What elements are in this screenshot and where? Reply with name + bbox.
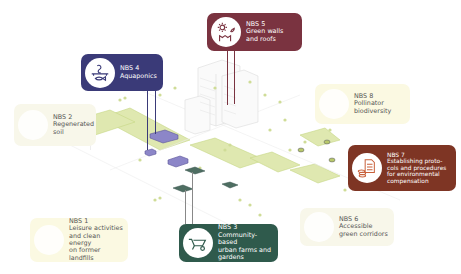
leader-line-nbs4 bbox=[155, 90, 156, 134]
icon-circle bbox=[18, 110, 48, 140]
leader-line-nbs4 bbox=[147, 90, 148, 150]
card-nbs3[interactable]: NBS 3 Community-based urban farms and ga… bbox=[179, 224, 278, 262]
card-label: Regenerated soil bbox=[53, 121, 94, 136]
card-label: Leisure activities and clean energy on f… bbox=[69, 225, 123, 262]
card-label: Aquaponics bbox=[120, 73, 157, 80]
leader-line-nbs5 bbox=[234, 50, 235, 104]
soil-icon bbox=[22, 114, 44, 136]
icon-circle bbox=[34, 225, 64, 255]
green-strip bbox=[300, 128, 340, 146]
icon-circle bbox=[211, 17, 241, 47]
bee-icon bbox=[323, 93, 345, 115]
icon-circle bbox=[304, 212, 334, 242]
farm-blocks bbox=[173, 167, 238, 192]
corridor-icon bbox=[308, 216, 330, 238]
card-label: Pollinator biodiversity bbox=[354, 100, 391, 115]
landfill-icon bbox=[38, 229, 60, 251]
card-nbs8[interactable]: NBS 8 Pollinator biodiversity bbox=[315, 84, 410, 124]
nbs-city-diagram: NBS 5 Green walls and roofs NBS 4 Aquapo… bbox=[0, 0, 461, 274]
card-nbs1[interactable]: NBS 1 Leisure activities and clean energ… bbox=[30, 218, 128, 262]
card-nbs2[interactable]: NBS 2 Regenerated soil bbox=[14, 104, 96, 146]
card-label: Accessible green corridors bbox=[339, 223, 388, 238]
icon-circle bbox=[85, 58, 115, 88]
aquaponics-icon bbox=[89, 62, 111, 84]
card-nbs6[interactable]: NBS 6 Accessible green corridors bbox=[300, 208, 394, 246]
icon-circle bbox=[319, 89, 349, 119]
green-strip bbox=[190, 138, 265, 168]
leader-line-nbs3 bbox=[192, 172, 193, 224]
leader-line-nbs3 bbox=[185, 190, 186, 224]
green-wall-icon bbox=[215, 21, 237, 43]
icon-circle bbox=[183, 228, 213, 258]
green-strip bbox=[290, 164, 340, 183]
leader-line-nbs5 bbox=[227, 50, 228, 105]
tower-buildings bbox=[185, 60, 258, 134]
document-coins-icon bbox=[356, 157, 378, 179]
card-nbs4[interactable]: NBS 4 Aquaponics bbox=[81, 54, 163, 91]
wheelbarrow-icon bbox=[187, 232, 209, 254]
card-nbs5[interactable]: NBS 5 Green walls and roofs bbox=[207, 13, 302, 51]
card-number: NBS 7 bbox=[387, 152, 446, 159]
card-label: Green walls and roofs bbox=[246, 28, 283, 43]
green-strip bbox=[250, 152, 300, 172]
card-label: Establishing proto- cols and procedures … bbox=[387, 158, 446, 184]
card-nbs7[interactable]: NBS 7 Establishing proto- cols and proce… bbox=[348, 145, 456, 191]
icon-circle bbox=[352, 153, 382, 183]
card-label: Community-based urban farms and gardens bbox=[218, 232, 273, 262]
